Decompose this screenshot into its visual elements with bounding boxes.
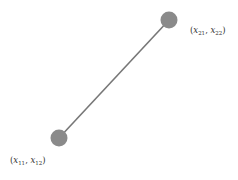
point-2-sub-a: 21 bbox=[198, 30, 205, 36]
point-2-label: (x21, x22) bbox=[190, 25, 226, 36]
point-2-marker bbox=[161, 12, 178, 29]
point-1-sub-b: 12 bbox=[35, 160, 42, 166]
point-2-sub-b: 22 bbox=[215, 30, 222, 36]
point-1-sub-a: 11 bbox=[18, 160, 25, 166]
point-1-label: (x11, x12) bbox=[10, 155, 46, 166]
point-1-marker bbox=[51, 130, 68, 147]
connecting-segment bbox=[59, 20, 169, 138]
